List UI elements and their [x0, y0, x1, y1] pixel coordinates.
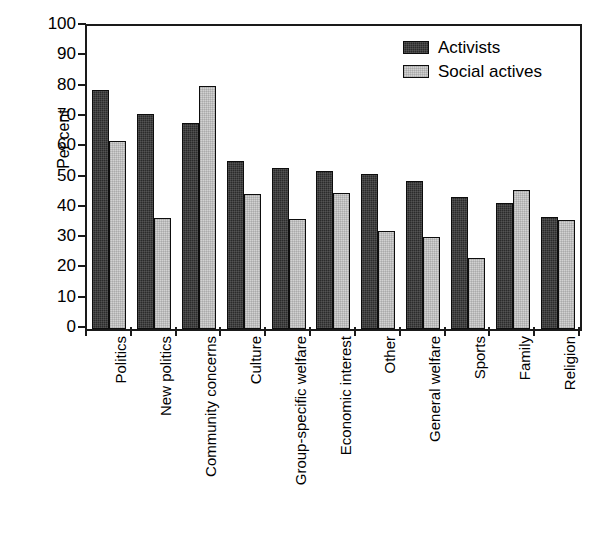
- bar-group: [266, 26, 311, 329]
- x-axis-tick-label-text: Culture: [248, 336, 263, 384]
- x-axis-tick-mark: [354, 327, 356, 336]
- y-axis-tick-mark: [78, 296, 86, 298]
- y-axis-tick-labels: 1009080706050403020100: [32, 0, 76, 559]
- y-axis-tick-mark: [78, 84, 86, 86]
- x-axis-tick-mark: [309, 327, 311, 336]
- x-axis-tick-mark: [444, 327, 446, 336]
- x-axis-tick-mark: [219, 327, 221, 336]
- bar: [182, 123, 199, 329]
- x-axis-tick-label: General welfare: [427, 336, 442, 442]
- y-axis-tick-label: 50: [32, 167, 76, 184]
- y-axis-tick-mark: [78, 23, 86, 25]
- x-axis-tick-label-text: Group-specific welfare: [293, 336, 308, 485]
- bar: [316, 171, 333, 329]
- bar: [378, 231, 395, 329]
- bar: [154, 218, 171, 329]
- bar-group: [221, 26, 266, 329]
- bar: [496, 203, 513, 329]
- bar: [137, 114, 154, 329]
- x-axis-tick-label: Politics: [113, 336, 128, 384]
- legend-item: Activists: [403, 36, 573, 58]
- bar: [558, 220, 575, 329]
- y-axis-tick-label: 80: [32, 76, 76, 93]
- bar-group: [177, 26, 222, 329]
- bar-group: [311, 26, 356, 329]
- bar-group: [87, 26, 132, 329]
- bar: [361, 174, 378, 329]
- x-axis-tick-label: Culture: [248, 336, 263, 384]
- x-axis-tick-mark: [533, 327, 535, 336]
- x-axis-tick-mark: [175, 327, 177, 336]
- x-axis-tick-label-text: Religion: [562, 336, 577, 390]
- x-axis-tick-label: Community concerns: [203, 336, 218, 477]
- x-axis-tick-mark: [130, 327, 132, 336]
- bar: [92, 90, 109, 329]
- x-axis-tick-label-text: Family: [517, 336, 532, 380]
- x-axis-tick-label: Family: [517, 336, 532, 380]
- y-axis-tick-mark: [78, 265, 86, 267]
- y-axis-tick-label: 90: [32, 45, 76, 62]
- x-axis-tick-label: Religion: [562, 336, 577, 390]
- bar: [289, 219, 306, 329]
- x-axis-tick-label-text: Economic interest: [338, 336, 353, 455]
- y-axis-tick-label: 60: [32, 136, 76, 153]
- legend-swatch-icon: [403, 41, 429, 54]
- bar: [468, 258, 485, 329]
- bar: [199, 86, 216, 329]
- x-axis-tick-label: New politics: [158, 336, 173, 416]
- bar: [541, 217, 558, 329]
- bar: [423, 237, 440, 329]
- bar-chart: Per cent 1009080706050403020100 Politics…: [0, 0, 603, 559]
- x-axis-tick-mark: [85, 327, 87, 336]
- x-axis-tick-label-text: New politics: [158, 336, 173, 416]
- y-axis-tick-label: 100: [32, 15, 76, 32]
- bar: [333, 193, 350, 329]
- y-axis-tick-label: 70: [32, 106, 76, 123]
- legend-swatch-icon: [403, 65, 429, 78]
- bar-group: [132, 26, 177, 329]
- bar-group: [356, 26, 401, 329]
- x-axis-tick-mark: [264, 327, 266, 336]
- bar: [451, 197, 468, 329]
- x-axis-tick-mark: [399, 327, 401, 336]
- x-axis-tick-label: Sports: [472, 336, 487, 379]
- y-axis-tick-mark: [78, 205, 86, 207]
- x-axis-tick-label: Economic interest: [338, 336, 353, 455]
- y-axis-tick-label: 10: [32, 288, 76, 305]
- legend-label: Social actives: [438, 63, 542, 80]
- x-axis-tick-label-text: Community concerns: [203, 336, 218, 477]
- y-axis-tick-label: 0: [32, 318, 76, 335]
- bar: [406, 181, 423, 329]
- y-axis-tick-mark: [78, 235, 86, 237]
- legend-item: Social actives: [403, 60, 573, 82]
- x-axis-tick-label: Group-specific welfare: [293, 336, 308, 485]
- x-axis-tick-label-text: Other: [382, 336, 397, 374]
- chart-legend: ActivistsSocial actives: [403, 36, 573, 84]
- bar: [272, 168, 289, 329]
- x-axis-tick-mark: [488, 327, 490, 336]
- bar: [513, 190, 530, 329]
- bar: [244, 194, 261, 329]
- bar: [109, 141, 126, 329]
- y-axis-tick-mark: [78, 53, 86, 55]
- bar: [227, 161, 244, 329]
- y-axis-tick-mark: [78, 114, 86, 116]
- y-axis-tick-mark: [78, 175, 86, 177]
- x-axis-tick-label-text: Sports: [472, 336, 487, 379]
- x-axis-tick-mark: [578, 327, 580, 336]
- legend-label: Activists: [438, 39, 500, 56]
- y-axis-tick-mark: [78, 326, 86, 328]
- y-axis-tick-label: 40: [32, 197, 76, 214]
- y-axis-tick-mark: [78, 144, 86, 146]
- y-axis-tick-label: 20: [32, 257, 76, 274]
- x-axis-tick-label: Other: [382, 336, 397, 374]
- x-axis-tick-label-text: Politics: [113, 336, 128, 384]
- y-axis-tick-label: 30: [32, 227, 76, 244]
- x-axis-tick-label-text: General welfare: [427, 336, 442, 442]
